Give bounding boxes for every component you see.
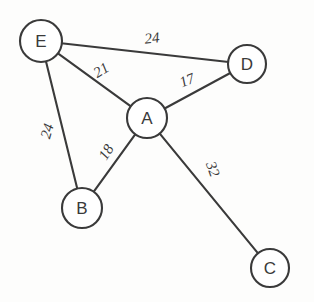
node-label-a: A bbox=[141, 109, 153, 128]
nodes-group: EDABC bbox=[20, 20, 289, 287]
edge-weight-e-b: 24 bbox=[37, 121, 57, 140]
graph-svg: EDABC 242124171832 bbox=[0, 0, 314, 302]
node-a[interactable]: A bbox=[127, 98, 167, 138]
edge-weight-a-d: 17 bbox=[177, 69, 198, 90]
edge-a-b bbox=[93, 134, 135, 192]
edge-a-c bbox=[159, 133, 258, 254]
edge-a-d bbox=[164, 73, 231, 109]
node-b[interactable]: B bbox=[62, 188, 102, 228]
node-label-b: B bbox=[76, 199, 87, 218]
edge-weight-e-a: 21 bbox=[90, 59, 111, 81]
node-d[interactable]: D bbox=[228, 45, 266, 83]
node-label-d: D bbox=[241, 55, 253, 74]
node-label-c: C bbox=[264, 259, 276, 278]
graph-diagram-canvas: EDABC 242124171832 bbox=[0, 0, 314, 302]
edge-e-a bbox=[58, 53, 132, 106]
node-e[interactable]: E bbox=[20, 20, 62, 62]
edge-weight-a-b: 18 bbox=[95, 141, 117, 163]
edge-weight-e-d: 24 bbox=[144, 29, 161, 47]
node-c[interactable]: C bbox=[251, 249, 289, 287]
node-label-e: E bbox=[35, 32, 46, 51]
edge-weight-a-c: 32 bbox=[203, 158, 224, 179]
